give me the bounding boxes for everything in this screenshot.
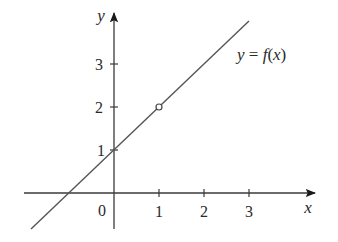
- x-tick-label-3: 3: [245, 203, 253, 220]
- curve-label-eq: =: [245, 45, 263, 64]
- y-tick-label-3: 3: [95, 56, 103, 73]
- function-graph: 1 2 3 1 2 3 0 x y y = f(x): [0, 0, 338, 242]
- function-line: [31, 21, 249, 229]
- origin-label: 0: [98, 202, 106, 219]
- curve-label: y = f(x): [235, 45, 286, 64]
- curve-label-paren-close: ): [281, 45, 287, 64]
- y-tick-label-1: 1: [97, 142, 105, 159]
- x-axis-label: x: [303, 198, 312, 217]
- hole-point: [156, 104, 162, 110]
- x-tick-label-1: 1: [155, 203, 163, 220]
- y-axis-label: y: [95, 6, 105, 25]
- curve-label-y: y: [235, 45, 245, 64]
- y-tick-label-2: 2: [95, 99, 103, 116]
- x-tick-label-2: 2: [200, 203, 208, 220]
